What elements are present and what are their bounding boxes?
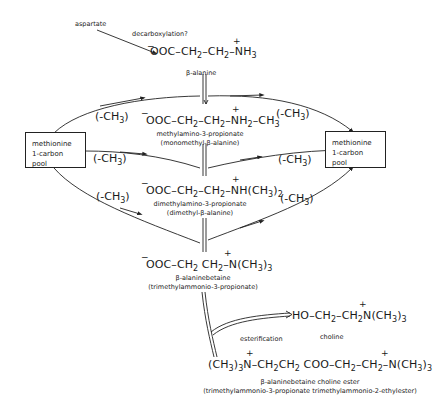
choline-formula: HO–CH2–CH2N(CH3)3 +: [292, 309, 407, 322]
reversible-arrow-2: [203, 144, 206, 176]
methyl-label-right-top: (-CH3): [276, 107, 310, 120]
methylamino-formula: −OOC–CH2–CH2–NH2–CH3 +: [146, 114, 280, 127]
beta-alaninebetaine-alt-name: (trimethylammonio-3-propionate): [138, 283, 268, 291]
beta-alaninebetaine-name: β-alaninebetaine: [148, 274, 258, 282]
right-methionine-pool: methionine 1-carbon pool: [325, 131, 386, 168]
dimethylamino-name: dimethylamino-3-propionate: [150, 200, 250, 208]
aspartate-label: aspartate: [75, 20, 106, 28]
ester-name: β-alaninebetaine choline ester: [210, 378, 410, 386]
betaine-to-ester-arrow: [202, 292, 217, 357]
beta-alanine-name: β-alanine: [186, 69, 216, 77]
ester-alt-name: (trimethylammonio-3-propionate trimethyl…: [185, 387, 434, 395]
decarboxylation-label: decarboxylation?: [132, 30, 188, 38]
left-methionine-pool: methionine 1-carbon pool: [25, 132, 86, 168]
methylamino-name: methylamino-3-propionate: [150, 130, 250, 138]
dimethylamino-alt-name: (dimethyl-β-alanine): [150, 209, 250, 217]
methylamino-alt-name: (monomethyl-β-alanine): [150, 139, 250, 147]
reversible-arrow-1: [203, 74, 208, 104]
methyl-label-right-bottom: (-CH3): [280, 192, 314, 205]
right-pool-line-2: 1-carbon pool: [332, 148, 379, 168]
esterification-label: esterification: [240, 335, 283, 343]
methyl-label-right-middle: (-CH3): [278, 153, 312, 166]
ester-formula: (CH3)3N–CH2CH2 COO–CH2–CH2–N(CH3)3 + +: [208, 358, 432, 371]
methyl-label-left-top: (-CH3): [95, 110, 129, 123]
dimethylamino-formula: −OOC–CH2–CH2–NH(CH3)2 +: [146, 184, 283, 197]
reversible-arrow-3: [203, 218, 206, 252]
choline-esterification-arrow: [211, 311, 292, 335]
left-pool-line-1: methionine: [32, 139, 79, 149]
right-pool-line-1: methionine: [332, 138, 379, 148]
methyl-label-left-bottom: (-CH3): [96, 190, 130, 203]
choline-name: choline: [320, 333, 343, 341]
beta-alaninebetaine-formula: −OOC–CH2 CH2–N(CH3)3 +: [146, 258, 273, 271]
beta-alanine-formula: −OOC–CH2–CH2–NH3 +: [150, 45, 257, 58]
methyl-label-left-middle: (-CH3): [93, 152, 127, 165]
left-pool-line-2: 1-carbon pool: [32, 149, 79, 169]
